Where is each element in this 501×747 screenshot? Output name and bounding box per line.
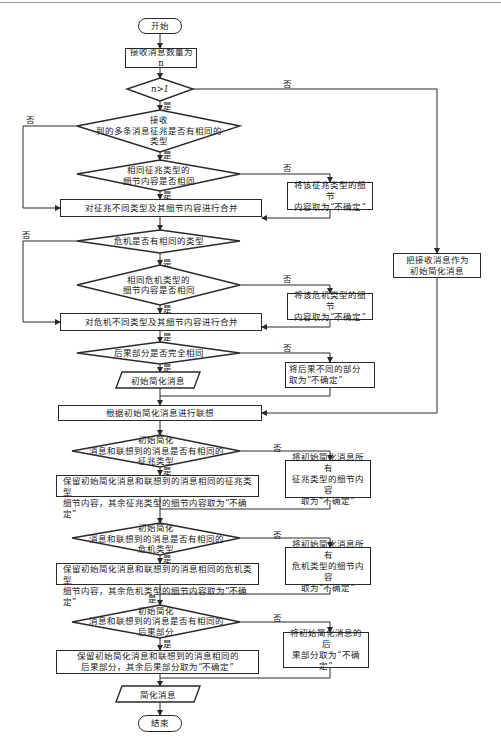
edge-label-yes: 是: [163, 101, 172, 111]
edge-label-yes: 是: [163, 363, 172, 373]
step-keep-consequence: 保留初始简化消息和联想到的消息相同的 后果部分，其余后果部分取为“不确定”: [56, 650, 259, 674]
edge-label-yes: 是: [163, 304, 172, 314]
side-crisis-uncertain-line1: 将该危机类型的细节: [291, 290, 369, 312]
edge-label-yes: 是: [148, 594, 157, 604]
edge-label-yes: 是: [163, 554, 172, 564]
side-crisis-uncertain-line2: 内容取为“不确定”: [294, 312, 366, 323]
step-keep-sign-line2: 细节内容，其余征兆类型的细节内容取为“不确定”: [63, 498, 255, 520]
io-simplified-message-label: 简化消息: [140, 688, 176, 700]
decision-n-gt-1-label: n>1: [151, 84, 169, 95]
edge-label-yes: 是: [163, 150, 172, 160]
decision-same-crisis-type-label: 危机是否有相同的类型: [114, 236, 204, 247]
decision-same-crisis-detail-line2: 细节内容是否相同: [123, 285, 195, 296]
side-all-crisis-line2: 危机类型的细节内容: [289, 561, 367, 583]
side-consequence-uncertain: 将后果不同的部分 取为“不确定”: [285, 362, 375, 388]
decision-assoc-consequence-text: 初始简化 消息和联想到的消息是否有相同的 后果部分: [72, 605, 240, 638]
step-keep-consequence-line2: 后果部分，其余后果部分取为“不确定”: [81, 662, 234, 673]
side-all-crisis-uncertain: 将初始简化消息所有 危机类型的细节内容 取为“不确定”: [285, 547, 371, 585]
edge-label-no: 否: [283, 163, 292, 173]
decision-same-sign-type-line3: 类型: [150, 136, 168, 147]
edge-label-no: 否: [283, 79, 292, 89]
decision-assoc-sign-line1: 初始简化: [138, 435, 174, 446]
edge-label-yes: 是: [163, 639, 172, 649]
end-label: 结束: [151, 718, 169, 729]
edge-label-no: 否: [273, 613, 282, 623]
step-keep-sign-details: 保留初始简化消息和联想到的消息相同的征兆类型 细节内容，其余征兆类型的细节内容取…: [56, 475, 259, 497]
step-associate: 根据初始简化消息进行联想: [58, 405, 262, 421]
step-associate-text: 根据初始简化消息进行联想: [106, 408, 214, 419]
side-crisis-uncertain: 将该危机类型的细节 内容取为“不确定”: [287, 293, 373, 320]
decision-assoc-consequence-line3: 后果部分: [138, 627, 174, 638]
decision-same-crisis-detail-line1: 相同危机类型的: [127, 275, 190, 286]
decision-same-consequence-text: 后果部分是否完全相同: [77, 342, 240, 364]
step-keep-crisis-details: 保留初始简化消息和联想到的消息相同的危机类型 细节内容，其余危机类型的细节内容取…: [56, 563, 259, 585]
step-merge-signs: 对征兆不同类型及其细节内容进行合并: [60, 199, 262, 217]
step-initial-as-is-line1: 把接收消息作为: [406, 255, 469, 266]
decision-same-crisis-type-text: 危机是否有相同的类型: [77, 230, 240, 253]
edge-label-yes: 是: [163, 332, 172, 342]
step-merge-signs-text: 对征兆不同类型及其细节内容进行合并: [85, 203, 238, 214]
side-sign-uncertain-line2: 内容取为“不确定”: [294, 202, 366, 213]
io-simplified-message-text: 简化消息: [116, 686, 200, 702]
decision-same-crisis-detail-text: 相同危机类型的 细节内容是否相同: [77, 265, 240, 305]
io-initial-message-text: 初始简化消息: [116, 372, 200, 388]
step-keep-crisis-line1: 保留初始简化消息和联想到的消息相同的危机类型: [63, 564, 255, 586]
side-all-sign-uncertain: 将初始简化消息所有 征兆类型的细节内容 取为“不确定”: [285, 460, 371, 498]
edge-label-no: 否: [283, 343, 292, 353]
side-consequence-uncertain-line1: 将后果不同的部分: [289, 364, 361, 375]
edge-label-yes: 是: [163, 466, 172, 476]
start-label: 开始: [151, 21, 169, 32]
side-all-sign-line1: 将初始简化消息所有: [289, 452, 367, 474]
end-terminal: 结束: [138, 715, 182, 732]
side-all-consequence-line1: 将初始简化消息的后: [287, 628, 365, 650]
edge-label-no: 否: [273, 530, 282, 540]
decision-same-sign-detail-line1: 相同征兆类型的: [127, 165, 190, 176]
edge-label-no: 否: [22, 230, 31, 240]
decision-assoc-crisis-line1: 初始简化: [138, 523, 174, 534]
decision-assoc-consequence-line2: 消息和联想到的消息是否有相同的: [89, 616, 224, 627]
side-sign-uncertain: 将该征兆类型的细节 内容取为“不确定”: [287, 182, 373, 210]
decision-same-sign-type-line2: 到的多条消息征兆是否有相同的: [96, 126, 222, 137]
edge-label-yes: 是: [163, 190, 172, 200]
side-all-crisis-line1: 将初始简化消息所有: [289, 539, 367, 561]
start-terminal: 开始: [138, 18, 182, 34]
decision-assoc-crisis-type-text: 初始简化 消息和联想到的消息是否有相同的 危机类型: [72, 523, 240, 555]
side-all-sign-line3: 取为“不确定”: [301, 496, 355, 507]
side-sign-uncertain-line1: 将该征兆类型的细节: [291, 180, 369, 202]
edge-label-yes: 是: [163, 258, 172, 268]
side-all-sign-line2: 征兆类型的细节内容: [289, 474, 367, 496]
step-initial-as-is-line2: 初始简化消息: [410, 266, 464, 277]
decision-same-sign-type-text: 接收 到的多条消息征兆是否有相同的 类型: [77, 110, 240, 152]
step-merge-crisis: 对危机不同类型及其细节内容进行合并: [60, 313, 262, 331]
edge-label-no: 否: [273, 443, 282, 453]
side-all-consequence-uncertain: 将初始简化消息的后 果部分取为“不确定”: [283, 632, 369, 668]
decision-assoc-sign-line2: 消息和联想到的消息是否有相同的: [89, 446, 224, 457]
step-keep-consequence-line1: 保留初始简化消息和联想到的消息相同的: [77, 651, 239, 662]
decision-assoc-crisis-line2: 消息和联想到的消息是否有相同的: [89, 534, 224, 545]
io-initial-message-label: 初始简化消息: [131, 374, 185, 386]
edge-label-no: 否: [283, 274, 292, 284]
side-all-crisis-line3: 取为“不确定”: [301, 583, 355, 594]
decision-assoc-sign-type-text: 初始简化 消息和联想到的消息是否有相同的 征兆类型: [72, 435, 240, 467]
decision-same-sign-detail-text: 相同征兆类型的 细节内容是否相同: [77, 160, 240, 191]
decision-n-gt-1-text: n>1: [127, 78, 193, 101]
step-receive-count: 接收消息数量为n: [125, 48, 197, 68]
edge-label-no: 否: [26, 115, 35, 125]
step-keep-sign-line1: 保留初始简化消息和联想到的消息相同的征兆类型: [63, 476, 255, 498]
step-receive-count-text: 接收消息数量为n: [129, 47, 193, 69]
step-merge-crisis-text: 对危机不同类型及其细节内容进行合并: [85, 317, 238, 328]
decision-same-sign-type-line1: 接收: [150, 115, 168, 126]
decision-assoc-consequence-line1: 初始简化: [138, 606, 174, 617]
side-all-consequence-line2: 果部分取为“不确定”: [287, 650, 365, 672]
decision-same-sign-detail-line2: 细节内容是否相同: [123, 176, 195, 187]
step-initial-as-is: 把接收消息作为 初始简化消息: [393, 253, 481, 278]
side-consequence-uncertain-line2: 取为“不确定”: [289, 375, 343, 386]
decision-same-consequence-label: 后果部分是否完全相同: [114, 348, 204, 359]
